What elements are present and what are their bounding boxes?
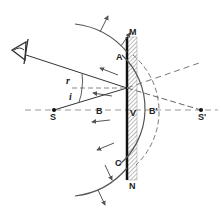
incident-wavefront <box>75 24 127 52</box>
reflected-arrow <box>97 143 114 150</box>
reflected-arrow <box>92 120 110 122</box>
angle-i-arc <box>79 88 82 102</box>
label-S-prime: S' <box>198 112 206 122</box>
wave-arrow <box>105 165 112 180</box>
reflected-arrow <box>100 68 118 75</box>
incident-wavefront-lower <box>75 168 127 196</box>
wavefront-reflection-diagram: M N A C B V B' S S' r i <box>0 0 221 218</box>
label-M: M <box>129 27 137 37</box>
label-S: S <box>50 112 56 122</box>
virtual-ray-to-image <box>127 88 201 110</box>
label-angle-i: i <box>69 91 72 102</box>
eye-icon <box>12 39 28 64</box>
label-B-prime: B' <box>149 106 158 116</box>
label-angle-r: r <box>66 75 70 86</box>
label-V: V <box>130 108 136 118</box>
incident-ray <box>54 88 127 110</box>
reflected-ray <box>26 55 127 88</box>
label-A: A <box>116 52 123 62</box>
angle-r-arc <box>82 74 83 88</box>
label-C: C <box>115 158 122 168</box>
incident-ray-extension <box>127 62 202 88</box>
label-B: B <box>96 106 103 116</box>
label-N: N <box>129 181 136 191</box>
wave-arrow <box>98 190 105 205</box>
wave-arrow <box>100 16 108 32</box>
